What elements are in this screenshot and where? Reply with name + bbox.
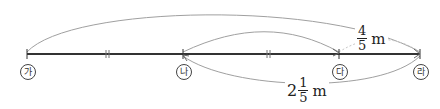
point-label-na: 나: [176, 64, 192, 80]
diagram-canvas: [0, 0, 440, 109]
point-label-ga: 가: [20, 64, 36, 80]
fraction: 4 5: [357, 24, 367, 53]
length-label-da-ra: 4 5 m: [355, 24, 388, 53]
point-label-ra: 라: [413, 64, 429, 80]
numerator: 4: [357, 24, 367, 39]
numerator: 1: [298, 76, 308, 91]
unit: m: [312, 82, 326, 100]
denominator: 5: [358, 39, 366, 53]
fraction: 1 5: [298, 76, 308, 105]
arc-na-da: [183, 32, 339, 52]
length-label-na-ra: 2 1 5 m: [285, 76, 329, 105]
point-label-da: 다: [332, 64, 348, 80]
whole-number: 2: [287, 81, 297, 100]
denominator: 5: [299, 91, 307, 105]
unit: m: [371, 30, 385, 48]
